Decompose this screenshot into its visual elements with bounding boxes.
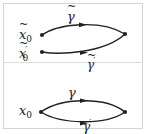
- arrow-icon: [80, 99, 88, 103]
- label-x0-tilde-prime: x′0: [19, 46, 28, 63]
- top-panel: [40, 23, 127, 55]
- label-x0: x0: [19, 104, 32, 120]
- label-gamma-tilde: γ: [67, 10, 75, 23]
- label-gamma: γ: [68, 86, 76, 99]
- point-end-bottom: [123, 110, 127, 114]
- label-gamma-tilde-prime: γ′: [87, 57, 95, 71]
- point-x0: [39, 110, 43, 114]
- path-gamma-tilde-prime: [42, 34, 125, 53]
- label-gamma-prime: γ′: [83, 119, 91, 133]
- point-x0-tilde: [40, 33, 44, 37]
- point-x0-tilde-prime: [40, 50, 44, 54]
- point-end-top: [123, 32, 127, 36]
- path-gamma: [41, 101, 125, 112]
- arrow-icon: [79, 23, 87, 28]
- path-gamma-tilde: [42, 25, 125, 35]
